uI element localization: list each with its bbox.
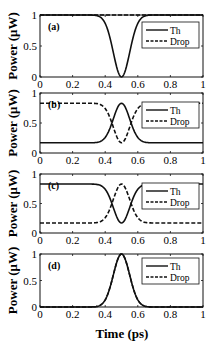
x-tick-label: 0 (37, 234, 43, 246)
panel-b: 00.20.40.60.8100.51Power (μW)(b)ThDrop (5, 87, 206, 166)
legend: ThDrop (142, 102, 199, 128)
legend-label-drop: Drop (170, 117, 190, 127)
legend: ThDrop (142, 183, 199, 209)
legend: ThDrop (142, 22, 199, 48)
y-axis-label: Power (μW) (5, 89, 20, 156)
x-tick-label: 0 (37, 154, 43, 166)
figure: 00.20.40.60.8100.51Power (μW)(a)ThDrop00… (0, 0, 212, 346)
panel-d: 00.20.40.60.8100.51Power (μW)(d)ThDrop (5, 247, 206, 320)
x-tick-label: 0.2 (66, 78, 80, 90)
y-tick-label: 0.5 (23, 40, 37, 52)
legend: ThDrop (142, 258, 199, 284)
y-tick-label: 1 (32, 9, 38, 21)
x-axis-label: Time (ps) (96, 326, 149, 341)
x-tick-label: 0 (37, 78, 43, 90)
y-tick-label: 1 (32, 87, 38, 99)
panel-label: (a) (48, 21, 60, 33)
y-tick-label: 0 (32, 147, 38, 159)
y-tick-label: 0.5 (23, 117, 37, 129)
x-tick-label: 0.8 (164, 154, 178, 166)
y-tick-label: 0.5 (23, 198, 37, 210)
x-tick-label: 0.2 (66, 234, 80, 246)
y-tick-label: 0 (32, 227, 38, 239)
x-tick-label: 0.4 (98, 78, 112, 90)
panel-c: 00.20.40.60.8100.51Power (μW)(c)ThDrop (5, 168, 206, 246)
panel-label: (c) (48, 180, 59, 192)
y-axis-label: Power (μW) (5, 247, 20, 314)
x-tick-label: 0 (37, 308, 43, 320)
panels: 00.20.40.60.8100.51Power (μW)(a)ThDrop00… (5, 9, 206, 320)
x-tick-label: 0.6 (131, 154, 145, 166)
x-tick-label: 0.4 (98, 308, 112, 320)
panel-label: (d) (48, 260, 60, 272)
y-tick-label: 1 (32, 248, 38, 260)
panel-a: 00.20.40.60.8100.51Power (μW)(a)ThDrop (5, 9, 206, 90)
legend-label-th: Th (170, 262, 181, 272)
x-tick-label: 1 (200, 234, 206, 246)
y-tick-label: 1 (32, 168, 38, 180)
legend-label-th: Th (170, 187, 181, 197)
x-tick-label: 0.6 (131, 78, 145, 90)
x-tick-label: 0.8 (164, 308, 178, 320)
x-tick-label: 0.8 (164, 234, 178, 246)
x-tick-label: 0.6 (131, 234, 145, 246)
x-tick-label: 0.6 (131, 308, 145, 320)
x-tick-label: 0.4 (98, 234, 112, 246)
panel-label: (b) (48, 99, 60, 111)
legend-label-drop: Drop (170, 273, 190, 283)
legend-label-th: Th (170, 26, 181, 36)
x-tick-label: 0.8 (164, 78, 178, 90)
figure-canvas: 00.20.40.60.8100.51Power (μW)(a)ThDrop00… (0, 0, 212, 346)
x-tick-label: 0.2 (66, 308, 80, 320)
x-tick-label: 0.4 (98, 154, 112, 166)
x-tick-label: 0.2 (66, 154, 80, 166)
legend-label-drop: Drop (170, 37, 190, 47)
legend-label-drop: Drop (170, 198, 190, 208)
x-tick-label: 1 (200, 78, 206, 90)
legend-label-th: Th (170, 106, 181, 116)
y-tick-label: 0.5 (23, 275, 37, 287)
x-tick-label: 1 (200, 154, 206, 166)
y-axis-label: Power (μW) (5, 170, 20, 237)
x-tick-label: 1 (200, 308, 206, 320)
y-tick-label: 0 (32, 301, 38, 313)
y-tick-label: 0 (32, 71, 38, 83)
y-axis-label: Power (μW) (5, 12, 20, 79)
